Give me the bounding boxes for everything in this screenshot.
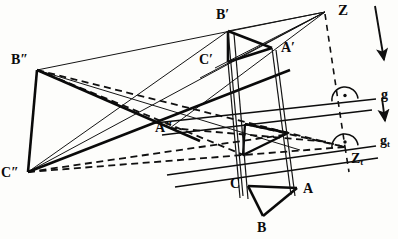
axis-Z-to-Zt	[325, 14, 345, 147]
label-Zt-subscript: t	[360, 157, 363, 167]
label-Zt: Zt	[351, 152, 363, 167]
triangle-ABC	[248, 186, 297, 216]
edge-B-A	[263, 188, 297, 216]
right-angle-dot-g	[343, 94, 346, 97]
geometry-figure: Z Zt g gt A′ B′ C′ A B C A″ B″ C″	[0, 0, 398, 239]
direction-arrows	[375, 6, 385, 121]
edge-Bpp-Cpp	[28, 70, 37, 172]
label-A-prime: A′	[281, 41, 295, 55]
line-gt	[167, 146, 376, 175]
label-B-prime: B′	[216, 8, 229, 22]
label-B-double-prime: B″	[11, 53, 28, 67]
label-gt: gt	[380, 134, 390, 149]
label-g: g	[381, 88, 388, 102]
edge-C-B	[248, 186, 263, 216]
label-B: B	[257, 221, 266, 235]
label-A-double-prime: A″	[155, 121, 173, 135]
diagram-canvas	[0, 0, 398, 239]
right-angle-markers	[332, 87, 358, 149]
label-gt-text: g	[380, 133, 387, 148]
ray-App-to-Z	[170, 12, 325, 128]
label-A: A	[303, 182, 313, 196]
ray-Z-through-Ap	[215, 12, 325, 68]
ray-Z-to-Bp-edge	[228, 12, 325, 31]
label-Z: Z	[338, 3, 348, 18]
arrow-upper	[375, 6, 384, 60]
dash-Cpp-to-Zt	[28, 147, 345, 172]
label-Zt-text: Z	[351, 151, 360, 166]
label-C-prime: C′	[199, 53, 213, 67]
label-C-double-prime: C″	[1, 166, 19, 180]
label-C: C	[230, 177, 240, 191]
label-gt-subscript: t	[387, 139, 390, 149]
right-angle-dot-gt	[343, 140, 346, 143]
dash-Cpp-to-At	[28, 134, 290, 172]
